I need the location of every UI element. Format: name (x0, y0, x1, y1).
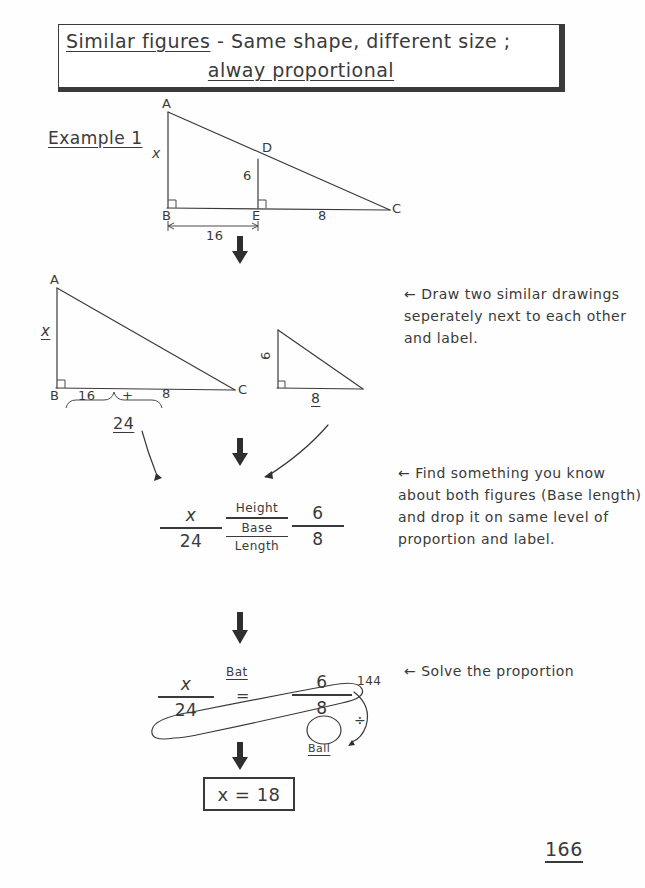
proportion-left-denominator: 24 (160, 531, 222, 551)
proportion-middle-numerator: Height (226, 501, 288, 515)
example-label: Example 1 (48, 128, 142, 148)
cross-left-denominator: 24 (158, 700, 214, 720)
segment-ec-length-label: 8 (318, 208, 327, 223)
note-find-something: ← Find something you know about both fig… (398, 462, 644, 550)
big-triangle-base-part-1: 16 (78, 388, 96, 403)
vertex-label-d: D (262, 140, 273, 155)
title-line-2: alway proportional (66, 58, 536, 82)
big-triangle-height-label: x (41, 322, 50, 340)
flow-arrow-down-2 (228, 438, 252, 468)
answer-box: x = 18 (203, 777, 295, 811)
cross-multiply-block: x 24 = 6 8 Bat Ball 144 ÷ (140, 660, 400, 755)
cross-equals-sign: = (236, 686, 250, 705)
proportion-right-denominator: 8 (292, 529, 344, 549)
note-arrow-icon-3: ← (404, 663, 416, 679)
fraction-bar (292, 525, 344, 527)
figure-2-big-triangle: A B C x 16 + 8 (30, 260, 260, 405)
big-triangle-base-plus: + (122, 388, 133, 403)
title-line-1: Similar figures - Same shape, different … (66, 29, 552, 53)
side-ab-length-label: x (152, 145, 161, 161)
page-number: 166 (545, 838, 583, 863)
cross-right-fraction: 6 8 (292, 672, 352, 718)
note-solve-proportion: ← Solve the proportion (404, 660, 644, 682)
notebook-page: Similar figures - Same shape, different … (0, 0, 645, 888)
title-rest: - Same shape, different size ; (210, 30, 510, 52)
vertex-label-b: B (162, 208, 171, 223)
proportion-middle-fraction: Height Base Length (226, 501, 288, 553)
fraction-bar (226, 517, 288, 519)
proportion-middle-denominator-2: Length (226, 539, 288, 553)
figure-1-triangle-abc: A B C D E x 6 16 8 (140, 100, 400, 250)
note-solve-text: Solve the proportion (421, 663, 574, 679)
note-find-text: Find something you know about both figur… (398, 465, 642, 547)
cross-left-fraction: x 24 (158, 674, 214, 720)
note-draw-two-similar: ← Draw two similar drawings seperately n… (404, 283, 644, 349)
cross-left-numerator: x (158, 674, 214, 694)
fraction-bar (158, 696, 214, 698)
small-triangle-height-label: 6 (258, 351, 273, 360)
cross-right-denominator: 8 (292, 698, 352, 718)
cross-right-numerator: 6 (292, 672, 352, 692)
segment-de-length-label: 6 (243, 168, 252, 183)
proportion-right-numerator: 6 (292, 503, 344, 523)
vertex-label-b2: B (50, 388, 59, 403)
title-keyword: Similar figures (66, 30, 210, 52)
proportion-middle-denominator-1: Base (226, 521, 288, 535)
fraction-bar (292, 694, 352, 696)
note-arrow-icon-2: ← (398, 465, 410, 481)
vertex-label-e: E (252, 208, 261, 223)
fraction-bar (160, 527, 222, 529)
ball-label: Ball (308, 742, 330, 755)
flow-arrow-down-3 (228, 612, 252, 646)
answer-text: x = 18 (217, 784, 280, 805)
fraction-bar (226, 536, 288, 538)
bat-label: Bat (226, 665, 248, 679)
cross-product-value: 144 (357, 674, 381, 688)
big-triangle-base-part-2: 8 (162, 386, 171, 401)
flow-arrow-down-4 (228, 742, 252, 772)
proportion-left-fraction: x 24 (160, 505, 222, 551)
small-triangle-base-label: 8 (311, 390, 320, 406)
proportion-row: x 24 Height Base Length 6 8 (160, 495, 390, 590)
note-draw-text: Draw two similar drawings seperately nex… (404, 286, 626, 346)
figure-2-small-triangle: 6 8 (245, 318, 370, 408)
proportion-right-fraction: 6 8 (292, 503, 344, 549)
vertex-label-a2: A (50, 272, 59, 287)
proportion-left-numerator: x (160, 505, 222, 525)
vertex-label-c: C (392, 201, 402, 216)
segment-be-length-label: 16 (206, 228, 224, 243)
vertex-label-a: A (162, 96, 171, 111)
divide-symbol: ÷ (354, 712, 366, 728)
note-arrow-icon-1: ← (404, 286, 416, 302)
title-line-2-text: alway proportional (208, 59, 394, 81)
